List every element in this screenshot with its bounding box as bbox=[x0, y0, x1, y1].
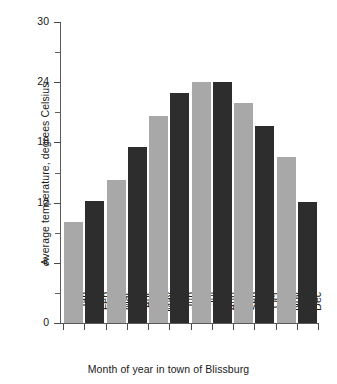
x-axis-title: Month of year in town of Blissburg bbox=[0, 363, 337, 375]
bars-group bbox=[0, 0, 337, 384]
bar-aug bbox=[213, 82, 232, 323]
bar-feb bbox=[85, 201, 104, 323]
bar-nov bbox=[277, 157, 296, 323]
bar-jun bbox=[170, 93, 189, 323]
bar-may bbox=[149, 116, 168, 323]
bar-mar bbox=[107, 180, 126, 323]
bar-chart: Average temperature, degrees Celsius 061… bbox=[0, 0, 337, 384]
bar-oct bbox=[255, 126, 274, 323]
bar-jan bbox=[64, 222, 83, 323]
bar-dec bbox=[298, 202, 317, 323]
bar-sep bbox=[234, 103, 253, 323]
bar-jul bbox=[192, 82, 211, 323]
bar-apr bbox=[128, 147, 147, 323]
